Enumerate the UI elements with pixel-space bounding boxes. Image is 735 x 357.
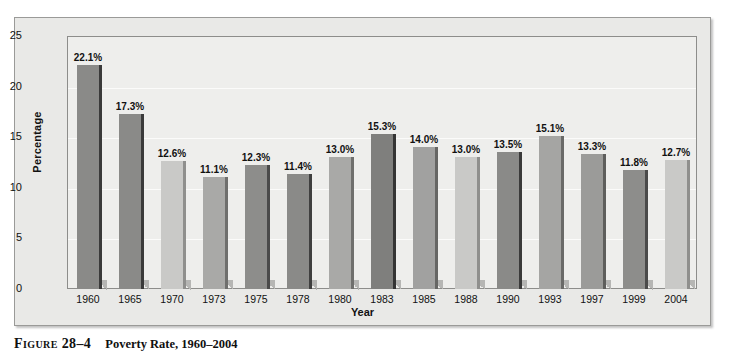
figure-caption-text: Poverty Rate, 1960–2004 [105, 337, 237, 351]
bar[interactable] [623, 170, 645, 289]
bar[interactable] [119, 114, 141, 289]
y-axis-tick-label: 0 [0, 282, 22, 294]
bar-item[interactable]: 12.3% [245, 36, 267, 289]
bar-side-face [435, 147, 438, 289]
bar[interactable] [329, 157, 351, 289]
bar-item[interactable]: 12.7% [665, 36, 687, 289]
bar-value-label: 13.0% [310, 144, 370, 155]
bar[interactable] [371, 134, 393, 289]
bar[interactable] [77, 65, 99, 289]
y-axis-tick-label: 20 [0, 80, 22, 92]
bar-item[interactable]: 14.0% [413, 36, 435, 289]
y-axis-title: Percentage [31, 82, 43, 202]
bar[interactable] [203, 177, 225, 289]
bar-side-face [645, 170, 648, 289]
bar-side-face [183, 161, 186, 289]
figure-caption: Figure 28–4Poverty Rate, 1960–2004 [14, 336, 238, 352]
y-axis-tick-label: 5 [0, 231, 22, 243]
figure-number: Figure 28–4 [14, 336, 91, 351]
y-axis-tick-label: 10 [0, 181, 22, 193]
bar-item[interactable]: 17.3% [119, 36, 141, 289]
bar-item[interactable]: 11.8% [623, 36, 645, 289]
bar-value-label: 12.7% [646, 147, 706, 158]
y-axis-tick-label: 15 [0, 130, 22, 142]
bar-side-face [225, 177, 228, 289]
bar-side-face [309, 174, 312, 289]
x-axis-tick-label: 2004 [646, 293, 706, 305]
bar-item[interactable]: 22.1% [77, 36, 99, 289]
bar-side-face [393, 134, 396, 289]
bar-side-face [603, 154, 606, 289]
bar-value-label: 13.3% [562, 141, 622, 152]
bar-item[interactable]: 11.4% [287, 36, 309, 289]
bar-side-face [519, 152, 522, 289]
bar-value-label: 15.3% [352, 121, 412, 132]
bar-side-face [351, 157, 354, 289]
bar-item[interactable]: 13.0% [329, 36, 351, 289]
bar-side-face [687, 160, 690, 289]
bar[interactable] [497, 152, 519, 289]
bar[interactable] [665, 160, 687, 289]
bar-value-label: 17.3% [100, 101, 160, 112]
bar[interactable] [245, 165, 267, 289]
bar[interactable] [413, 147, 435, 289]
bar-value-label: 11.8% [604, 157, 664, 168]
y-axis-tick-label: 25 [0, 29, 22, 41]
bar[interactable] [581, 154, 603, 289]
bar[interactable] [455, 157, 477, 289]
bar-item[interactable]: 13.3% [581, 36, 603, 289]
x-axis-title: Year [15, 306, 710, 318]
bar[interactable] [539, 136, 561, 289]
bar-side-face [141, 114, 144, 289]
bar-item[interactable]: 15.1% [539, 36, 561, 289]
bar[interactable] [161, 161, 183, 289]
bar-value-label: 13.5% [478, 139, 538, 150]
bar[interactable] [287, 174, 309, 289]
bar-value-label: 12.6% [142, 148, 202, 159]
bar-value-label: 15.1% [520, 123, 580, 134]
bar-value-label: 11.1% [184, 164, 244, 175]
figure-panel: Percentage 2520151050 22.1%17.3%12.6%11.… [14, 17, 711, 326]
bar-value-label: 11.4% [268, 161, 328, 172]
bar-item[interactable]: 13.0% [455, 36, 477, 289]
bar-side-face [477, 157, 480, 289]
bar-side-face [561, 136, 564, 289]
bar-value-label: 22.1% [58, 52, 118, 63]
bar-side-face [267, 165, 270, 289]
bar-item[interactable]: 15.3% [371, 36, 393, 289]
bar-side-face [99, 65, 102, 289]
bar-item[interactable]: 12.6% [161, 36, 183, 289]
bar-item[interactable]: 11.1% [203, 36, 225, 289]
bar-item[interactable]: 13.5% [497, 36, 519, 289]
bar-series: 22.1%17.3%12.6%11.1%12.3%11.4%13.0%15.3%… [67, 36, 697, 289]
